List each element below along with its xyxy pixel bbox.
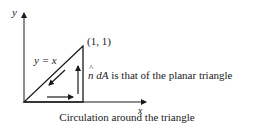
normal-vector-symbol: n — [88, 70, 94, 81]
y-axis-label: y — [12, 7, 17, 18]
figure-caption: Circulation around the triangle — [0, 112, 254, 123]
circulation-arrow-down-left — [49, 70, 65, 85]
normal-annotation: n dA is that of the planar triangle — [88, 70, 233, 81]
area-element: dA — [94, 69, 109, 81]
vertex-label: (1, 1) — [87, 36, 111, 47]
hypotenuse-label: y = x — [34, 55, 57, 66]
annotation-text: is that of the planar triangle — [108, 69, 232, 81]
